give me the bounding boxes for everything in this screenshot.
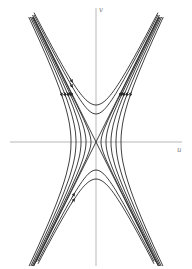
trajectory — [33, 17, 91, 266]
flow-arrow-icon — [64, 92, 65, 95]
flow-arrow-icon — [127, 92, 128, 95]
flow-arrow-icon — [124, 92, 125, 95]
trajectory — [106, 17, 159, 266]
trajectory — [101, 17, 159, 266]
trajectory — [30, 17, 76, 266]
flow-arrow-icon — [72, 194, 74, 197]
flow-arrow-icon — [70, 78, 72, 81]
u-axis-label: u — [177, 146, 182, 154]
v-axis-label: v — [99, 6, 103, 14]
flow-arrow-icon — [72, 199, 74, 202]
flow-arrow-icon — [70, 83, 72, 86]
flow-arrow-icon — [61, 92, 62, 95]
trajectory — [116, 17, 162, 266]
flow-arrow-icon — [67, 92, 68, 95]
flow-arrow-icon — [130, 92, 131, 95]
trajectory — [33, 17, 86, 266]
phase-portrait — [0, 0, 192, 269]
